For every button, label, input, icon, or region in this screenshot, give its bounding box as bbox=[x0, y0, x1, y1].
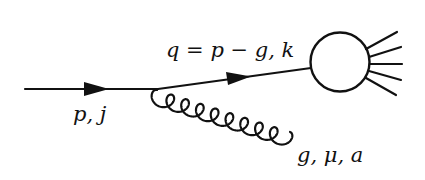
internal-quark-label: q = p − g, k bbox=[166, 40, 294, 61]
arrow-right-icon bbox=[84, 82, 109, 96]
internal-quark-line bbox=[158, 68, 311, 89]
outgoing-line bbox=[366, 78, 396, 95]
outgoing-lines bbox=[366, 32, 402, 95]
outgoing-line bbox=[366, 32, 397, 49]
outgoing-line bbox=[369, 47, 401, 57]
hard-process-blob bbox=[311, 33, 370, 92]
gluon-label: g, μ, a bbox=[297, 145, 363, 166]
gluon-line bbox=[152, 90, 293, 145]
incoming-quark-line bbox=[25, 82, 158, 96]
arrow-right-icon bbox=[226, 72, 251, 85]
incoming-quark-label: p, j bbox=[73, 104, 106, 125]
outgoing-line bbox=[369, 71, 401, 80]
